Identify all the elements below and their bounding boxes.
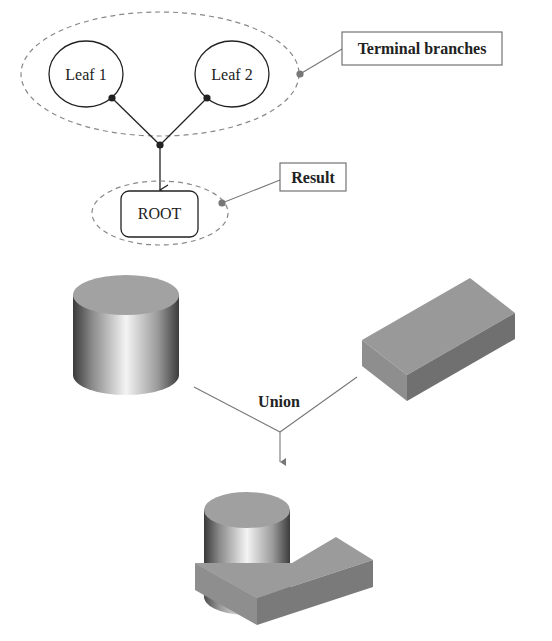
cylinder-shape	[73, 275, 179, 395]
leaf-1-label: Leaf 1	[65, 66, 106, 83]
union-label: Union	[258, 393, 300, 410]
callout-result-label: Result	[291, 169, 335, 186]
union-connector: Union	[194, 377, 357, 462]
leaf-1-port-dot	[108, 94, 115, 101]
edge-leaf1-junction	[112, 98, 160, 145]
edge-leaf2-junction	[160, 98, 207, 145]
callout-terminal-branches: Terminal branches	[296, 32, 502, 78]
root-label: ROOT	[138, 205, 182, 222]
callout-terminal-label: Terminal branches	[358, 40, 487, 57]
callout-terminal-dot	[296, 70, 303, 77]
terminal-branches-group: Leaf 1 Leaf 2	[21, 12, 299, 149]
leaf-2-label: Leaf 2	[211, 66, 252, 83]
box-shape	[362, 278, 515, 401]
callout-result-leader	[222, 180, 280, 203]
union-result-shape	[193, 492, 374, 625]
callout-result-dot	[218, 199, 225, 206]
callout-result: Result	[218, 163, 346, 207]
root-node[interactable]: ROOT	[121, 191, 198, 237]
result-group: ROOT	[92, 181, 228, 245]
leaf-2-port-dot	[203, 94, 210, 101]
callout-terminal-leader	[300, 49, 342, 74]
csg-tree-diagram: Leaf 1 Leaf 2 ROOT Terminal branches R	[0, 0, 552, 641]
